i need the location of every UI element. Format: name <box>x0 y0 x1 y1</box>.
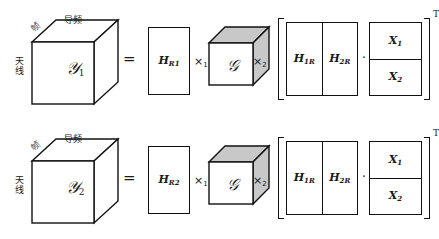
tensor-symbol: 𝒴2 <box>52 177 98 197</box>
tensor-symbol-name: 𝒴 <box>66 58 79 78</box>
x-block-matrix: X1 X2 <box>369 141 422 215</box>
x-block-sub-2: 2 <box>397 194 402 203</box>
dot-operator: · <box>362 173 366 181</box>
tensor-symbol-sub: 1 <box>79 68 85 78</box>
h-block-cell-1: H1R <box>287 23 323 95</box>
mode-2-times: × <box>253 174 262 187</box>
transpose-superscript: T <box>433 128 439 138</box>
h-block-sub-1: 1R <box>304 176 315 185</box>
equation-row-1: 导频 帧 天线 𝒴1 = HR1 ×1 𝒢 ×2 T H1R H2R <box>0 0 435 119</box>
h-block-name-2: H <box>329 52 339 65</box>
mode-1-times: × <box>194 174 203 187</box>
dot-operator: · <box>362 54 366 62</box>
x-block-cell-2: X2 <box>370 60 421 96</box>
h-block-label-1: H1R <box>294 52 315 66</box>
h-block-matrix: H1R H2R <box>286 22 358 96</box>
x-block-cell-1: X1 <box>370 142 421 179</box>
h-block-sub-2: 2R <box>340 176 351 185</box>
bracket-right <box>424 137 430 219</box>
h-block-cell-2: H2R <box>323 142 358 214</box>
transpose-superscript: T <box>433 9 439 19</box>
tensor-symbol: 𝒴1 <box>52 58 98 78</box>
bracket-left <box>278 137 284 219</box>
mode-2-sub: 2 <box>262 61 266 69</box>
axis-label-left: 天线 <box>14 56 25 76</box>
bracket-right <box>424 18 430 100</box>
h-matrix-sub: R2 <box>169 178 180 187</box>
x-block-sub-1: 1 <box>397 39 402 48</box>
bracket-left <box>278 18 284 100</box>
h-matrix-box: HR1 <box>148 27 190 95</box>
h-block-cell-1: H1R <box>287 142 323 214</box>
mode-2-times: × <box>253 55 262 68</box>
mode-2-sub: 2 <box>262 180 266 188</box>
core-tensor-symbol: 𝒢 <box>214 56 250 75</box>
h-matrix-label: HR1 <box>158 54 179 68</box>
axis-label-left: 天线 <box>14 175 25 195</box>
x-block-label-2: X2 <box>389 189 402 203</box>
core-tensor-symbol: 𝒢 <box>214 175 250 194</box>
h-block-label-2: H2R <box>329 52 350 66</box>
h-block-cell-2: H2R <box>323 23 358 95</box>
h-block-sub-1: 1R <box>304 57 315 66</box>
h-block-label-1: H1R <box>294 171 315 185</box>
h-matrix-label: HR2 <box>158 173 179 187</box>
mode-2-product: ×2 <box>253 174 267 188</box>
h-matrix-name: H <box>158 54 168 67</box>
equals-sign: = <box>123 50 136 68</box>
x-block-matrix: X1 X2 <box>369 22 422 96</box>
data-tensor-cube: 导频 帧 天线 𝒴1 <box>30 16 120 108</box>
axis-label-top: 导频 <box>64 132 82 145</box>
mode-1-product: ×1 <box>194 174 208 188</box>
x-block-sub-2: 2 <box>397 75 402 84</box>
equation-row-2: 导频 帧 天线 𝒴2 = HR2 ×1 𝒢 ×2 T H1R H2R <box>0 119 435 238</box>
equals-sign: = <box>123 169 136 187</box>
data-tensor-cube: 导频 帧 天线 𝒴2 <box>30 135 120 227</box>
h-block-matrix: H1R H2R <box>286 141 358 215</box>
x-block-label-1: X1 <box>389 34 402 48</box>
axis-label-top: 导频 <box>64 13 82 26</box>
x-block-label-1: X1 <box>389 153 402 167</box>
mode-1-product: ×1 <box>194 55 208 69</box>
mode-2-product: ×2 <box>253 55 267 69</box>
mode-1-times: × <box>194 55 203 68</box>
h-block-name-1: H <box>294 171 304 184</box>
block-matrix-group: T H1R H2R · X1 X2 <box>278 18 430 100</box>
h-matrix-box: HR2 <box>148 146 190 214</box>
x-block-sub-1: 1 <box>397 158 402 167</box>
tensor-symbol-name: 𝒴 <box>66 177 79 197</box>
tensor-symbol-sub: 2 <box>79 187 85 197</box>
h-block-sub-2: 2R <box>340 57 351 66</box>
x-block-label-2: X2 <box>389 70 402 84</box>
h-matrix-sub: R1 <box>169 59 180 68</box>
x-block-cell-2: X2 <box>370 179 421 215</box>
h-block-name-1: H <box>294 52 304 65</box>
h-matrix-name: H <box>158 173 168 186</box>
x-block-cell-1: X1 <box>370 23 421 60</box>
h-block-name-2: H <box>329 171 339 184</box>
block-matrix-group: T H1R H2R · X1 X2 <box>278 137 430 219</box>
h-block-label-2: H2R <box>329 171 350 185</box>
